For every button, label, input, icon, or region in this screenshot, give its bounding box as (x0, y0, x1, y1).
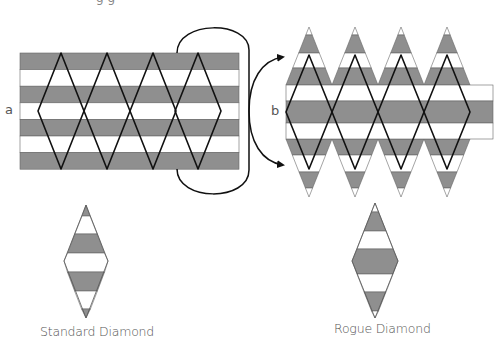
diamond-cutting-diagram: g g (0, 0, 503, 342)
panel-b-top-points (286, 27, 470, 85)
standard-diamond-caption: Standard Diamond (40, 324, 154, 339)
diagram-graphics (0, 0, 503, 342)
rogue-diamond-caption: Rogue Diamond (334, 321, 431, 336)
rogue-diamond-shape (352, 203, 398, 318)
panel-a-label: a (5, 102, 13, 117)
standard-diamond-shape (64, 205, 108, 318)
panel-b-label: b (271, 103, 279, 118)
panel-b-bottom-points (286, 139, 470, 197)
